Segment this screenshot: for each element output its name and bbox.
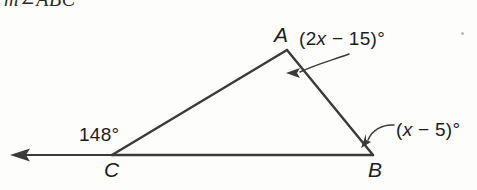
leader-arrowhead-angle-a-icon <box>286 68 300 78</box>
triangle-diagram-svg <box>0 0 477 190</box>
leader-line-angle-a <box>300 54 349 72</box>
geometry-figure: m∠ABC A B C (2x − 15)° (x − 5)° 148° <box>0 0 477 190</box>
vertex-label-b: B <box>368 159 382 180</box>
angle-label-c-exterior: 148° <box>79 125 120 144</box>
leader-line-angle-b <box>368 125 394 140</box>
angle-label-a: (2x − 15)° <box>299 29 385 48</box>
triangle-side-ab <box>287 50 373 155</box>
vertex-label-a: A <box>274 24 288 45</box>
vertex-label-c: C <box>104 159 119 180</box>
triangle-side-ca <box>112 50 287 155</box>
angle-label-b: (x − 5)° <box>396 120 460 139</box>
scan-speck <box>461 32 464 35</box>
